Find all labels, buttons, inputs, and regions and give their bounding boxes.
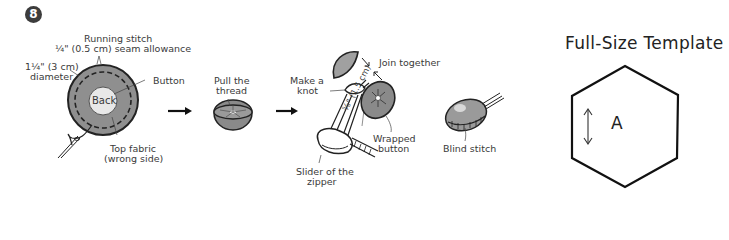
label-wrapped-button-2: button <box>378 143 409 154</box>
label-join-together: Join together <box>379 57 440 68</box>
blind-stitch-illustration <box>441 93 504 141</box>
arrow-icon-1 <box>168 107 192 115</box>
label-make-knot-2: knot <box>297 85 318 96</box>
label-pull-thread-2: thread <box>216 85 247 96</box>
label-back: Back <box>92 95 116 106</box>
label-blind-stitch: Blind stitch <box>443 143 496 154</box>
label-button: Button <box>153 75 185 86</box>
label-seam-allowance: ¼" (0.5 cm) seam allowance <box>55 43 191 54</box>
label-top-fabric-2: (wrong side) <box>104 153 163 164</box>
label-diameter-2: diameter <box>30 71 73 82</box>
arrow-icon-2 <box>276 107 298 115</box>
gathered-button-illustration <box>214 99 252 130</box>
template-piece-label: A <box>611 113 623 133</box>
label-slider-2: zipper <box>307 176 336 187</box>
template-title: Full-Size Template <box>565 33 723 53</box>
